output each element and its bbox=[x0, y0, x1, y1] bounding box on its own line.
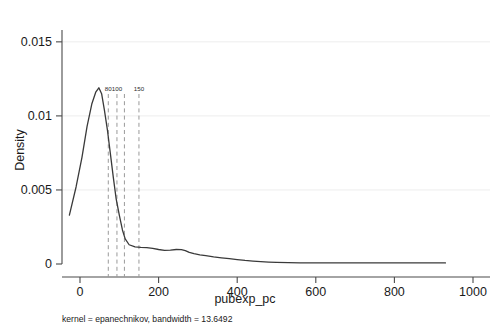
density-plot: 00.0050.010.015 02004006008001000 801001… bbox=[0, 0, 502, 336]
y-axis-title: Density bbox=[13, 128, 27, 170]
y-tick-label: 0.01 bbox=[28, 109, 52, 123]
x-tick-label: 200 bbox=[148, 285, 169, 299]
gridlines bbox=[62, 42, 490, 190]
x-axis-title: pubexp_pc bbox=[214, 292, 275, 306]
x-tick-label: 0 bbox=[77, 285, 84, 299]
x-tick-label: 600 bbox=[305, 285, 326, 299]
x-tick-label: 800 bbox=[384, 285, 405, 299]
y-tick-label: 0 bbox=[45, 257, 52, 271]
y-tick-label: 0.015 bbox=[21, 35, 52, 49]
reference-line-label: 100 bbox=[112, 85, 123, 92]
x-tick-label: 1000 bbox=[459, 285, 487, 299]
reference-vlines: 80100150 bbox=[105, 85, 145, 277]
reference-line-label: 150 bbox=[134, 85, 145, 92]
chart-svg: 00.0050.010.015 02004006008001000 801001… bbox=[0, 0, 502, 336]
density-curve bbox=[69, 88, 445, 263]
chart-caption: kernel = epanechnikov, bandwidth = 13.64… bbox=[62, 314, 233, 324]
x-axis-ticks: 02004006008001000 bbox=[77, 277, 487, 299]
y-tick-label: 0.005 bbox=[21, 183, 52, 197]
